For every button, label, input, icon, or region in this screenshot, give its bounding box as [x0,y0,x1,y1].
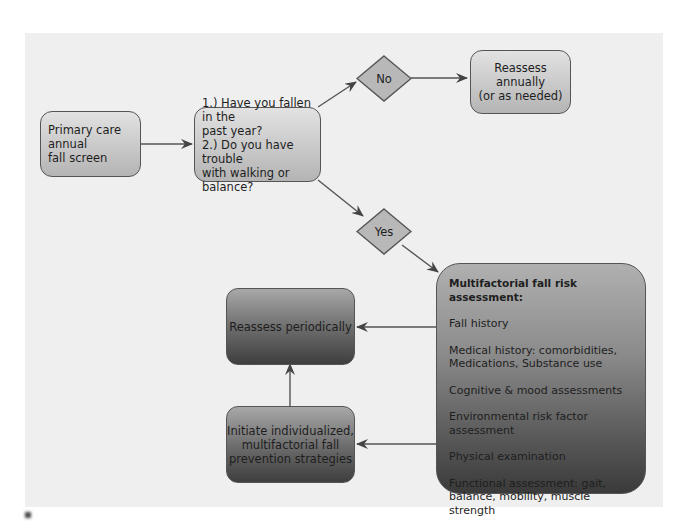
assessment-item: Medical history: comorbidities, Medicati… [449,344,633,371]
node-text-line: prevention strategies [229,452,352,466]
caption-marker-icon [25,512,31,518]
decision-label: No [376,72,392,86]
assessment-title: Multifactorial fall risk assessment: [449,277,633,304]
node-reassess-annually: Reassess annually (or as needed) [470,50,571,114]
question-line: 1.) Have you fallen in the [202,96,313,124]
node-text-line: Reassess annually [471,61,570,89]
node-primary-care-screen: Primary care annual fall screen [40,111,141,177]
question-line: past year? [202,124,313,138]
assessment-item: Cognitive & mood assessments [449,384,633,398]
assessment-item: Physical examination [449,450,633,464]
node-initiate-strategies: Initiate individualized, multifactorial … [226,406,355,483]
node-text-line: fall screen [48,151,133,165]
figure-caption-blurred [25,511,35,519]
node-text-line: multifactorial fall [242,438,340,452]
question-line: 2.) Do you have trouble [202,138,313,166]
assessment-item: Functional assessment: gait, balance, mo… [449,477,633,518]
node-multifactorial-assessment: Multifactorial fall risk assessment: Fal… [436,263,646,494]
node-text-line: (or as needed) [478,89,562,103]
node-text-line: Primary care annual [48,123,133,151]
node-screening-questions: 1.) Have you fallen in the past year? 2.… [194,107,321,182]
assessment-item: Fall history [449,317,633,331]
node-reassess-periodically: Reassess periodically [226,288,355,365]
assessment-item: Environmental risk factor assessment [449,410,633,437]
decision-yes: Yes [356,208,412,255]
decision-label: Yes [375,225,394,239]
node-text-line: Reassess periodically [229,320,352,334]
question-line: with walking or balance? [202,166,313,194]
decision-no: No [356,55,412,102]
node-text-line: Initiate individualized, [227,424,354,438]
